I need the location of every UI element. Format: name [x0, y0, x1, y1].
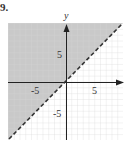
inequality-graph: [0, 0, 130, 147]
y-tick-neg5: -5: [53, 109, 61, 119]
y-axis-label: y: [64, 11, 68, 21]
x-tick-neg5: -5: [31, 86, 39, 96]
y-tick-5: 5: [57, 50, 62, 60]
x-tick-5: 5: [92, 86, 97, 96]
